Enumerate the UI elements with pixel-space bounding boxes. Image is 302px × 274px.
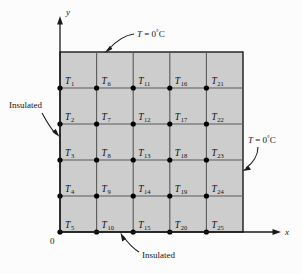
grid-node-dot — [167, 85, 172, 90]
node-subscript: 9 — [107, 188, 110, 195]
right-bc-equals: = 0 — [253, 135, 268, 145]
grid-node-dot — [131, 193, 136, 198]
node-subscript: 19 — [181, 188, 188, 195]
grid-node-dot — [204, 193, 209, 198]
node-subscript: 13 — [144, 152, 151, 159]
x-axis-arrowhead — [273, 229, 282, 235]
grid-node-dot — [131, 157, 136, 162]
node-subscript: 8 — [107, 152, 110, 159]
grid-node-dot — [94, 85, 99, 90]
top-bc-equals: = 0 — [142, 29, 157, 39]
grid-node-dot — [167, 121, 172, 126]
node-subscript: 23 — [217, 152, 224, 159]
node-subscript: 20 — [181, 224, 188, 231]
node-subscript: 14 — [144, 188, 151, 195]
node-subscript: 18 — [181, 152, 188, 159]
top-boundary-annotation: T = 0°C — [105, 28, 165, 54]
heat-conduction-grid-figure: T1T2T3T4T5T6T7T8T9T10T11T12T13T14T15T16T… — [0, 0, 302, 274]
node-subscript: 17 — [181, 116, 188, 123]
right-boundary-label: T = 0°C — [248, 134, 276, 146]
node-subscript: 5 — [71, 224, 74, 231]
grid-node-dot — [94, 157, 99, 162]
bottom-annotation-arrowhead — [121, 233, 126, 242]
y-axis-arrowhead — [57, 16, 63, 25]
left-boundary-label: Insulated — [9, 100, 42, 110]
node-subscript: 15 — [144, 224, 151, 231]
node-subscript: 25 — [217, 224, 224, 231]
right-boundary-annotation: T = 0°C — [242, 134, 276, 172]
origin-label: 0 — [50, 236, 55, 246]
bottom-boundary-label: Insulated — [142, 250, 175, 260]
node-subscript: 1 — [71, 80, 74, 87]
figure-canvas: T1T2T3T4T5T6T7T8T9T10T11T12T13T14T15T16T… — [0, 0, 302, 274]
left-boundary-annotation: Insulated — [9, 100, 60, 137]
grid-node-dot — [131, 121, 136, 126]
node-subscript: 10 — [107, 224, 114, 231]
node-subscript: 12 — [144, 116, 151, 123]
grid-node-dot — [94, 193, 99, 198]
bottom-boundary-annotation: Insulated — [121, 233, 176, 261]
y-axis-label: y — [65, 7, 70, 17]
node-subscript: 2 — [71, 116, 74, 123]
right-annotation-leader-line — [246, 147, 258, 168]
node-subscript: 11 — [144, 80, 150, 87]
grid-node-dot — [167, 193, 172, 198]
x-axis-label: x — [284, 227, 289, 237]
grid-node-dot — [94, 121, 99, 126]
node-subscript: 22 — [217, 116, 224, 123]
grid-node-dot — [167, 157, 172, 162]
grid-node-dot — [131, 85, 136, 90]
node-subscript: 24 — [217, 188, 224, 195]
top-annotation-leader-line — [108, 34, 134, 50]
right-bc-unit: C — [270, 135, 276, 145]
node-subscript: 16 — [181, 80, 188, 87]
top-bc-unit: C — [159, 29, 165, 39]
top-boundary-label: T = 0°C — [137, 28, 165, 40]
node-subscript: 21 — [217, 80, 224, 87]
grid-node-dot — [204, 85, 209, 90]
node-subscript: 3 — [71, 152, 74, 159]
grid-node-dot — [204, 157, 209, 162]
grid-node-dot — [204, 121, 209, 126]
